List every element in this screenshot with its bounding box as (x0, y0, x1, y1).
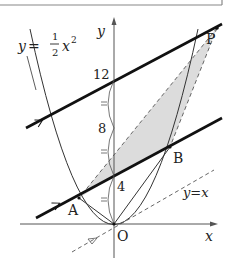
svg-text:2: 2 (52, 47, 58, 58)
svg-text:1: 1 (52, 31, 58, 42)
svg-text:=: = (28, 38, 40, 54)
svg-text:y: y (17, 38, 27, 54)
equal-arc-lower (108, 176, 114, 224)
x-axis-arrow-icon (210, 222, 218, 227)
parabola-equation-label: y = 1 2 x 2 (17, 31, 77, 58)
segment-OA (79, 198, 114, 224)
point-label-P: P (206, 31, 215, 47)
line-y-equals-x-label: y=x (182, 185, 209, 200)
origin-label: O (117, 228, 128, 244)
svg-text:x: x (62, 38, 70, 54)
point-P-dot (215, 26, 219, 30)
equation-leader-line (27, 56, 36, 90)
equal-arc-upper (108, 80, 114, 128)
point-A-dot (77, 196, 80, 199)
arrow-marker-icon (88, 238, 97, 244)
svg-text:2: 2 (71, 35, 77, 45)
parabola-diagram: A B P O x y 4 8 12 y=x y = 1 2 x 2 (0, 0, 235, 265)
y-axis-label: y (96, 23, 106, 39)
y-tick-4: 4 (117, 179, 125, 194)
y-axis-arrow-icon (112, 17, 117, 25)
y-tick-12: 12 (93, 67, 110, 82)
x-axis-label: x (205, 228, 213, 244)
origin-dot (112, 222, 115, 225)
point-label-A: A (67, 202, 79, 218)
point-label-B: B (173, 150, 183, 166)
equal-tick-marks (101, 102, 107, 201)
y-tick-8: 8 (98, 121, 106, 136)
point-B-dot (168, 145, 171, 148)
